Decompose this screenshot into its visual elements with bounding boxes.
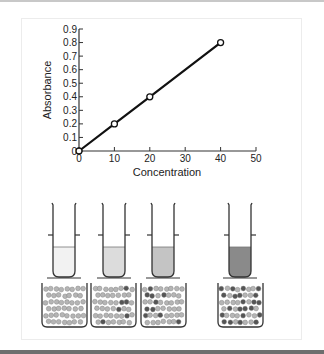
particle <box>48 286 53 291</box>
particle <box>221 293 226 298</box>
x-tick-label: 40 <box>215 153 227 164</box>
particle <box>176 319 181 324</box>
data-point-marker <box>76 148 82 154</box>
particle <box>161 319 166 324</box>
particle <box>124 300 129 305</box>
particle <box>62 320 67 325</box>
particle <box>145 320 150 325</box>
particle <box>257 300 262 305</box>
particle <box>222 306 227 311</box>
y-axis-title: Absorbance <box>41 61 53 120</box>
particle <box>251 286 256 291</box>
particle <box>219 286 224 291</box>
particle <box>228 320 233 325</box>
particle <box>238 320 243 325</box>
y-tick-label: 0.5 <box>63 78 77 89</box>
particle <box>100 293 105 298</box>
particle <box>142 287 147 292</box>
particle <box>158 300 163 305</box>
data-point-marker <box>147 94 153 100</box>
particle <box>225 300 230 305</box>
particle <box>256 286 261 291</box>
particle <box>65 300 70 305</box>
particle <box>222 319 227 324</box>
particle <box>243 320 248 325</box>
particle <box>114 314 119 319</box>
particle-beaker <box>91 283 136 327</box>
particle <box>158 287 163 292</box>
particle <box>44 287 49 292</box>
particle <box>169 301 174 306</box>
particle <box>56 306 61 311</box>
particle <box>111 320 116 325</box>
particle <box>231 300 236 305</box>
particle <box>71 314 76 319</box>
particle <box>174 286 179 291</box>
particle <box>151 320 156 325</box>
particle <box>72 319 77 324</box>
particle <box>180 287 185 292</box>
particle <box>93 313 98 318</box>
tube-liquid <box>229 247 251 277</box>
particle <box>59 300 64 305</box>
particle <box>93 299 98 304</box>
particle <box>105 307 110 312</box>
particle <box>238 307 243 312</box>
particle <box>73 307 78 312</box>
particle <box>126 307 131 312</box>
particle <box>96 320 101 325</box>
y-tick-label: 0.8 <box>63 37 77 48</box>
x-tick-label: 30 <box>180 153 192 164</box>
x-tick-label: 10 <box>109 153 121 164</box>
particle <box>247 299 252 304</box>
particle <box>81 299 86 304</box>
particle <box>44 314 49 319</box>
y-tick-label: 0.2 <box>63 118 77 129</box>
particle <box>227 293 232 298</box>
particle <box>162 293 167 298</box>
particle <box>125 314 130 319</box>
particle <box>241 286 246 291</box>
particle <box>81 313 86 318</box>
particle <box>104 313 109 318</box>
particle <box>76 286 81 291</box>
particle <box>249 306 254 311</box>
particle <box>148 286 153 291</box>
particle <box>235 300 240 305</box>
particle <box>220 313 225 318</box>
particle <box>252 313 257 318</box>
particle <box>54 287 59 292</box>
particle-beaker <box>42 283 87 327</box>
test-tube <box>47 203 81 278</box>
particle <box>124 286 129 291</box>
particle <box>154 300 159 305</box>
particle <box>79 306 84 311</box>
particle <box>119 300 124 305</box>
particle <box>73 293 78 298</box>
particle <box>75 300 80 305</box>
particle <box>113 287 118 292</box>
x-tick-label: 0 <box>76 153 82 164</box>
particle <box>243 293 248 298</box>
particle <box>233 320 238 325</box>
particle <box>230 313 235 318</box>
particle <box>109 287 114 292</box>
y-tick-label: 0.1 <box>63 132 77 143</box>
tube-liquid <box>103 247 125 277</box>
particle <box>49 299 54 304</box>
particle <box>109 313 114 318</box>
particle <box>249 320 254 325</box>
particle <box>54 313 59 318</box>
test-tube <box>97 203 131 278</box>
particle <box>241 313 246 318</box>
particle <box>248 293 253 298</box>
particle <box>169 286 174 291</box>
particle <box>105 293 110 298</box>
particle <box>54 300 59 305</box>
particle <box>172 307 177 312</box>
particle <box>166 293 171 298</box>
particle <box>153 313 158 318</box>
sample-illustration <box>42 203 263 327</box>
particle <box>51 319 56 324</box>
particle <box>110 293 115 298</box>
